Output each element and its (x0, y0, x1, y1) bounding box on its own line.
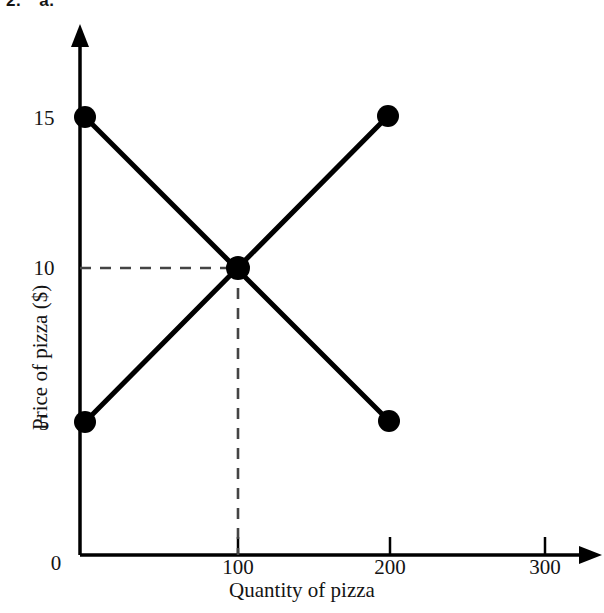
supply-point-start (74, 411, 96, 433)
x-tick-label-200: 200 (360, 555, 420, 580)
x-axis-title: Quantity of pizza (0, 578, 604, 603)
y-tick-label-10: 10 (22, 256, 66, 281)
x-tick-label-100: 100 (208, 555, 268, 580)
x-axis-ticks (238, 537, 545, 555)
demand-point-start (74, 106, 96, 128)
x-tick-label-0: 0 (36, 551, 76, 576)
chart-canvas (0, 0, 604, 613)
equilibrium-guides (80, 268, 238, 555)
supply-demand-figure: 2.a. (0, 0, 604, 613)
y-axis-title: Price of pizza ($) (28, 285, 53, 430)
demand-point-end (378, 410, 400, 432)
y-axis (71, 24, 89, 555)
x-tick-label-300: 300 (515, 555, 575, 580)
supply-point-end (377, 105, 399, 127)
equilibrium-point (226, 256, 250, 280)
y-tick-label-15: 15 (22, 106, 66, 131)
